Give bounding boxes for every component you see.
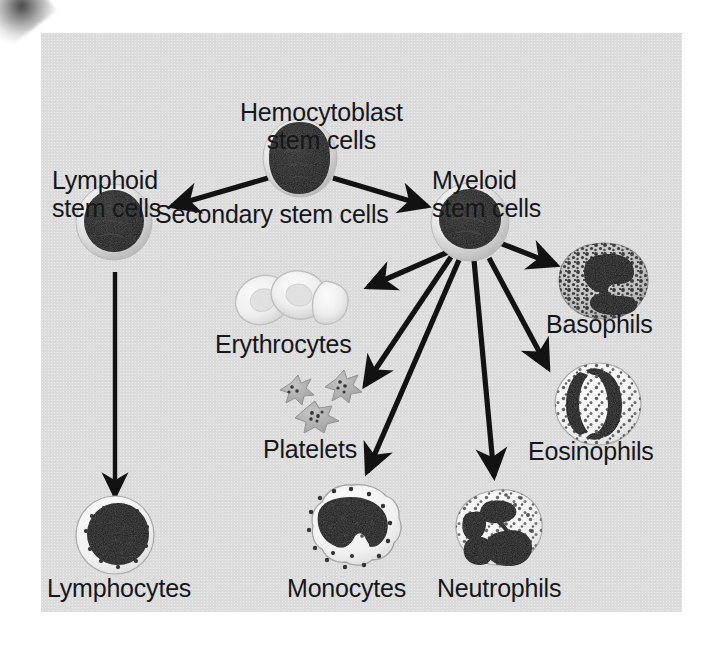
cell-basophils — [559, 243, 648, 319]
label-eosinophils: Eosinophils — [528, 437, 654, 465]
cell-platelets — [280, 370, 362, 433]
cell-monocytes — [307, 485, 401, 570]
label-platelets: Platelets — [263, 435, 357, 463]
label-neutrophils: Neutrophils — [437, 574, 561, 602]
label-basophils: Basophils — [546, 310, 653, 338]
cell-lymphocytes — [76, 496, 154, 574]
label-erythrocytes: Erythrocytes — [215, 330, 352, 358]
label-lymphoid-stem-cells: Lymphoid stem cells — [52, 110, 161, 278]
hematopoiesis-diagram: Hemocytoblast stem cells Lymphoid stem c… — [0, 0, 716, 648]
label-monocytes: Monocytes — [287, 574, 406, 602]
cell-erythrocytes — [228, 266, 348, 333]
label-myeloid-stem-cells: Myeloid stem cells — [432, 110, 541, 278]
cell-neutrophils — [456, 490, 542, 566]
edge-myeloid-to-neutrophils — [474, 260, 494, 476]
label-secondary-stem-cells: Secondary stem cells — [155, 200, 389, 228]
cell-eosinophils — [555, 363, 641, 445]
label-lymphocytes: Lymphocytes — [47, 574, 191, 602]
label-hemocytoblast-stem-cells: Hemocytoblast stem cells — [240, 42, 403, 210]
